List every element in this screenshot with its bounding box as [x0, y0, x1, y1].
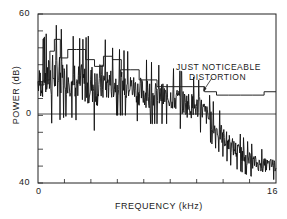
annotation-line2: DISTORTION [189, 72, 246, 82]
power-spectrum-line [38, 25, 276, 179]
y-tick-label-zero: 0 [26, 108, 32, 118]
y-axis-label: POWER (dB) [11, 65, 21, 125]
chart-canvas [0, 0, 287, 219]
y-tick-label-top: 60 [19, 8, 30, 18]
x-tick-label-end: 16 [267, 186, 278, 196]
y-tick-label-bottom: 40 [19, 177, 30, 187]
y-ticks [38, 14, 43, 183]
x-tick-label-start: 0 [36, 186, 42, 196]
x-ticks [64, 179, 249, 183]
annotation-line1: JUST NOTICEABLE [176, 62, 261, 72]
x-axis-label: FREQUENCY (kHz) [115, 201, 203, 211]
